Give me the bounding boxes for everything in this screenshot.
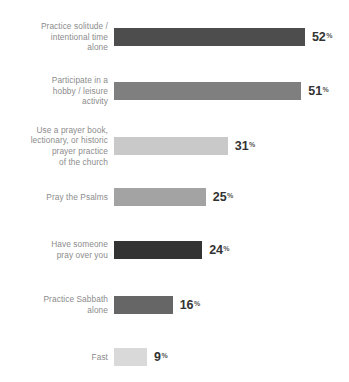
bar-segment — [114, 28, 305, 46]
category-label: Practice Sabbath alone — [0, 294, 108, 315]
category-label: Have someone pray over you — [0, 239, 108, 260]
bar-chart: Practice solitude / intentional time alo… — [0, 0, 349, 382]
percent-symbol: % — [326, 32, 332, 39]
bar-segment — [114, 296, 173, 314]
category-label: Participate in a hobby / leisure activit… — [0, 75, 108, 107]
bar-area: 52% — [108, 28, 349, 46]
chart-row: Fast 9% — [0, 346, 349, 368]
value-label: 31% — [235, 139, 255, 153]
chart-row: Practice Sabbath alone 16% — [0, 293, 349, 317]
category-label: Practice solitude / intentional time alo… — [0, 21, 108, 53]
bar-segment — [114, 82, 301, 100]
percent-symbol: % — [227, 192, 233, 199]
percent-symbol: % — [322, 86, 328, 93]
bar-area: 24% — [108, 241, 349, 259]
percent-symbol: % — [223, 245, 229, 252]
value-label: 24% — [209, 243, 229, 257]
bar-area: 51% — [108, 82, 349, 100]
chart-row: Have someone pray over you 24% — [0, 238, 349, 262]
bar-area: 16% — [108, 296, 349, 314]
value-label: 9% — [154, 350, 167, 364]
category-label: Fast — [0, 352, 108, 363]
bar-segment — [114, 188, 206, 206]
chart-row: Use a prayer book, lectionary, or histor… — [0, 124, 349, 168]
bar-segment — [114, 241, 202, 259]
bar-segment — [114, 348, 147, 366]
chart-row: Pray the Psalms 25% — [0, 186, 349, 208]
value-label: 16% — [180, 298, 200, 312]
bar-area: 31% — [108, 137, 349, 155]
bar-area: 25% — [108, 188, 349, 206]
bar-segment — [114, 137, 228, 155]
category-label: Use a prayer book, lectionary, or histor… — [0, 125, 108, 167]
percent-symbol: % — [161, 352, 167, 359]
value-label: 52% — [312, 30, 332, 44]
category-label: Pray the Psalms — [0, 192, 108, 203]
chart-row: Practice solitude / intentional time alo… — [0, 20, 349, 54]
percent-symbol: % — [249, 141, 255, 148]
bar-area: 9% — [108, 348, 349, 366]
value-label: 25% — [213, 190, 233, 204]
value-label: 51% — [308, 84, 328, 98]
chart-row: Participate in a hobby / leisure activit… — [0, 74, 349, 108]
percent-symbol: % — [194, 300, 200, 307]
